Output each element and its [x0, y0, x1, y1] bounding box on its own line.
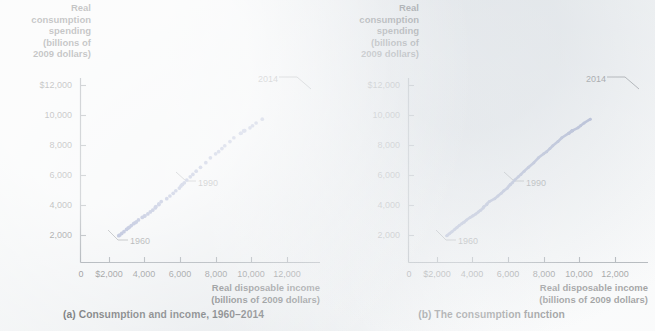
data-point — [474, 212, 477, 215]
data-point — [500, 192, 503, 195]
data-point — [485, 202, 488, 205]
data-point — [583, 122, 586, 125]
data-point — [223, 144, 227, 148]
data-point — [458, 224, 461, 227]
y-axis-title-line: Real — [333, 2, 419, 14]
data-point — [502, 189, 505, 192]
data-point — [174, 189, 178, 193]
y-tick-label: 8,000 — [16, 140, 72, 150]
data-point — [479, 209, 482, 212]
figure-consumption-and-income: Real consumption spending (billions of 2… — [0, 0, 655, 331]
data-point — [579, 124, 582, 127]
y-axis-title-line: (billions of — [333, 37, 419, 49]
x-axis-title-line: (billions of 2009 dollars) — [488, 294, 648, 306]
data-point — [185, 178, 189, 182]
data-point — [209, 156, 213, 160]
panel-a-caption: (a) Consumption and income, 1960–2014 — [0, 309, 327, 320]
data-point — [214, 152, 218, 156]
y-axis-title-line: 2009 dollars) — [333, 48, 419, 60]
y-axis-title-line: consumption — [333, 14, 419, 26]
y-tick-label: 8,000 — [344, 140, 400, 150]
data-point — [589, 118, 592, 121]
data-point — [523, 170, 526, 173]
data-point — [465, 218, 468, 221]
data-point — [537, 156, 540, 159]
y-axis-title-line: (billions of — [5, 37, 91, 49]
panel-a-axes — [81, 78, 321, 263]
x-axis-title-line: Real disposable income — [160, 282, 320, 294]
annotation-2014: 2014 — [258, 74, 278, 84]
data-point — [232, 136, 236, 140]
y-tick-label: 4,000 — [344, 200, 400, 210]
panel-b-caption: (b) The consumption function — [328, 309, 655, 320]
data-point — [228, 140, 232, 144]
data-point — [242, 129, 246, 133]
panel-b-data-points — [445, 118, 592, 238]
data-point — [568, 132, 571, 135]
x-tick-label: 12,000 — [264, 269, 310, 279]
data-point — [165, 197, 169, 201]
data-point — [260, 117, 264, 121]
data-point — [194, 169, 198, 173]
data-point — [220, 147, 224, 151]
data-point — [204, 161, 208, 165]
x-axis-title-line: (billions of 2009 dollars) — [160, 294, 320, 306]
data-point — [577, 126, 580, 129]
y-tick-label: 10,000 — [344, 110, 400, 120]
data-point — [471, 214, 474, 217]
data-point — [482, 206, 485, 209]
x-axis-title-line: Real disposable income — [488, 282, 648, 294]
panel-b-axes — [409, 78, 649, 263]
panel-b-x-axis-title: Real disposable income (billions of 2009… — [488, 282, 648, 305]
data-point — [511, 181, 514, 184]
annotation-1990: 1990 — [526, 178, 546, 188]
data-point — [159, 200, 163, 204]
y-tick-label: 6,000 — [344, 170, 400, 180]
data-point — [548, 147, 551, 150]
data-point — [217, 150, 221, 154]
annotation-1960: 1960 — [458, 236, 478, 246]
y-axis-title-line: 2009 dollars) — [5, 48, 91, 60]
data-point — [254, 121, 258, 125]
panel-a-y-axis-title: Real consumption spending (billions of 2… — [5, 2, 91, 60]
panel-a-consumption-and-income: Real consumption spending (billions of 2… — [0, 0, 327, 331]
data-point — [513, 179, 516, 182]
x-tick-label: 12,000 — [592, 269, 638, 279]
y-tick-label: $12,000 — [344, 80, 400, 90]
annotation-1990: 1990 — [198, 178, 218, 188]
data-point — [199, 165, 203, 169]
data-point — [137, 218, 141, 222]
y-tick-label: 10,000 — [16, 110, 72, 120]
y-tick-label: 2,000 — [344, 230, 400, 240]
y-tick-label: $12,000 — [16, 80, 72, 90]
data-point — [545, 150, 548, 153]
data-point — [527, 166, 530, 169]
y-axis-title-line: spending — [5, 25, 91, 37]
data-point — [154, 205, 158, 209]
panel-b-consumption-function: Real consumption spending (billions of 2… — [328, 0, 655, 331]
y-tick-label: 6,000 — [16, 170, 72, 180]
panel-a-data-points — [117, 117, 264, 237]
y-tick-label: 2,000 — [16, 230, 72, 240]
y-tick-label: 4,000 — [16, 200, 72, 210]
data-point — [168, 194, 172, 198]
data-point — [560, 136, 563, 139]
y-axis-title-line: Real — [5, 2, 91, 14]
data-point — [488, 200, 491, 203]
annotation-2014: 2014 — [586, 74, 606, 84]
data-point — [493, 197, 496, 200]
data-point — [556, 140, 559, 143]
data-point — [251, 124, 255, 128]
data-point — [542, 152, 545, 155]
data-point — [519, 173, 522, 176]
y-axis-title-line: consumption — [5, 14, 91, 26]
data-point — [191, 173, 195, 177]
data-point — [532, 161, 535, 164]
data-point — [477, 210, 480, 213]
y-axis-title-line: spending — [333, 25, 419, 37]
panel-b-y-axis-title: Real consumption spending (billions of 2… — [333, 2, 419, 60]
data-point — [570, 129, 573, 132]
data-point — [551, 144, 554, 147]
panel-a-x-axis-title: Real disposable income (billions of 2009… — [160, 282, 320, 305]
data-point — [517, 175, 520, 178]
